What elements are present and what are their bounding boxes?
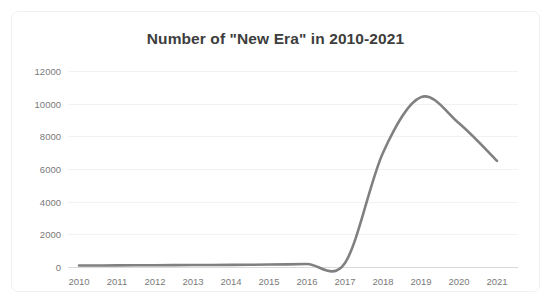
y-axis-tick-label: 12000 (35, 66, 61, 77)
x-axis-tick-label: 2015 (258, 276, 279, 287)
y-axis-tick-label: 10000 (35, 98, 61, 109)
x-axis-tick-label: 2017 (334, 276, 355, 287)
series-line-chart (68, 71, 518, 267)
x-axis-tick-label: 2019 (410, 276, 431, 287)
y-axis-tick-label: 6000 (40, 164, 61, 175)
series-line-new-era (79, 96, 497, 271)
x-axis-tick-label: 2014 (220, 276, 241, 287)
gridline (68, 267, 518, 268)
y-axis-tick-label: 2000 (40, 229, 61, 240)
x-axis-tick-label: 2013 (182, 276, 203, 287)
plot-area: 020004000600080001000012000 201020112012… (68, 71, 518, 267)
y-axis-tick-label: 8000 (40, 131, 61, 142)
chart-container: Number of "New Era" in 2010-2021 0200040… (11, 11, 540, 292)
x-axis-tick-label: 2021 (486, 276, 507, 287)
x-axis-tick-label: 2011 (107, 276, 127, 287)
y-axis-tick-label: 0 (56, 262, 61, 273)
x-axis-tick-label: 2018 (372, 276, 393, 287)
y-axis-tick-label: 4000 (40, 196, 61, 207)
x-axis-tick-label: 2010 (68, 276, 89, 287)
x-axis-tick-label: 2020 (448, 276, 469, 287)
chart-title: Number of "New Era" in 2010-2021 (12, 30, 539, 48)
x-axis-tick-label: 2012 (144, 276, 165, 287)
x-axis-tick-label: 2016 (296, 276, 317, 287)
